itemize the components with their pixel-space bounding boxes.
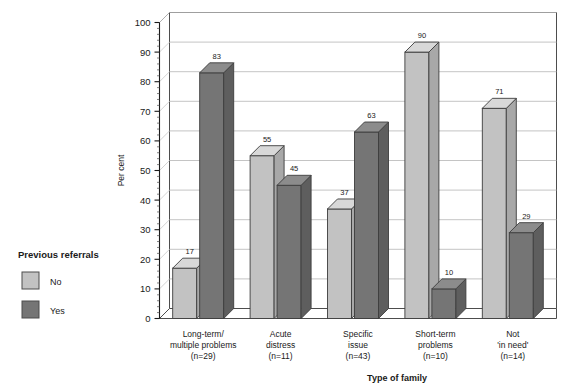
bar-front-face xyxy=(509,233,533,319)
bar-front-face xyxy=(405,52,429,318)
bar-side-face xyxy=(533,223,543,319)
bar-value-label: 37 xyxy=(340,188,348,197)
bar-front-face xyxy=(355,132,379,318)
bar-front-face xyxy=(432,289,456,319)
x-axis-category-label: (n=11) xyxy=(269,351,293,361)
bar-front-face xyxy=(173,268,197,318)
y-axis-tick-label: 60 xyxy=(140,135,151,146)
bar-value-label: 63 xyxy=(367,111,375,120)
bar-front-face xyxy=(250,156,274,319)
bar-yes-1 xyxy=(277,175,311,318)
y-axis-tick-label: 40 xyxy=(140,195,151,206)
bar-chart-canvas: 0102030405060708090100Per cent1783Long-t… xyxy=(0,0,576,392)
x-axis-category-label: issue xyxy=(348,340,368,350)
x-axis-category-label: distress xyxy=(266,340,295,350)
bar-value-label: 90 xyxy=(418,31,426,40)
y-axis-tick-label: 20 xyxy=(140,254,151,265)
bar-front-face xyxy=(482,108,506,318)
x-axis-category-label: Long-term/ xyxy=(183,329,225,339)
bar-no-3 xyxy=(405,42,439,318)
x-axis-category-label: (n=43) xyxy=(346,351,371,361)
bar-value-label: 83 xyxy=(213,52,221,61)
x-axis-category-label: multiple problems xyxy=(170,340,237,350)
bar-front-face xyxy=(200,73,224,319)
x-axis-category-label: Acute xyxy=(270,329,292,339)
x-axis-title: Type of family xyxy=(367,373,427,383)
y-axis-tick-label: 10 xyxy=(140,283,151,294)
x-axis-category-label: Not xyxy=(506,329,520,339)
y-axis-tick-label: 90 xyxy=(140,47,151,58)
bar-side-face xyxy=(429,42,439,318)
bar-front-face xyxy=(277,185,301,318)
legend-label-yes: Yes xyxy=(50,306,65,316)
legend-title: Previous referrals xyxy=(18,249,99,260)
bar-front-face xyxy=(328,209,352,319)
x-axis-category-label: Specific xyxy=(343,329,374,339)
bar-side-face xyxy=(301,175,311,318)
bar-yes-4 xyxy=(509,223,543,319)
bar-value-label: 17 xyxy=(186,247,194,256)
y-axis-title: Per cent xyxy=(116,154,126,186)
x-axis-category-label: Short-term xyxy=(415,329,455,339)
x-axis-category-label: (n=29) xyxy=(191,351,216,361)
y-axis-tick-label: 50 xyxy=(140,165,151,176)
y-axis-tick-label: 100 xyxy=(135,17,151,28)
x-axis-category-label: problems xyxy=(418,340,453,350)
y-axis-tick-label: 80 xyxy=(140,76,151,87)
bar-value-label: 71 xyxy=(495,87,503,96)
bar-value-label: 45 xyxy=(290,164,298,173)
bar-yes-3 xyxy=(432,279,466,319)
y-axis-tick-label: 70 xyxy=(140,106,151,117)
bar-side-face xyxy=(379,122,389,318)
bar-value-label: 10 xyxy=(445,268,453,277)
bar-value-label: 29 xyxy=(522,212,530,221)
chart-figure: 0102030405060708090100Per cent1783Long-t… xyxy=(0,0,576,392)
x-axis-category-label: (n=10) xyxy=(423,351,448,361)
bar-yes-0 xyxy=(200,63,234,319)
x-axis-category-label: 'in need' xyxy=(497,340,529,350)
legend-label-no: No xyxy=(50,277,62,287)
y-axis-tick-label: 30 xyxy=(140,224,151,235)
legend-swatch-no xyxy=(22,272,39,289)
y-axis-tick-label: 0 xyxy=(145,313,150,324)
bar-value-label: 55 xyxy=(263,135,271,144)
x-axis-category-label: (n=14) xyxy=(500,351,525,361)
legend-swatch-yes xyxy=(22,301,39,318)
bar-side-face xyxy=(224,63,234,319)
bar-yes-2 xyxy=(355,122,389,318)
